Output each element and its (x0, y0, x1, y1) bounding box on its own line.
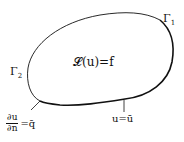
dirichlet-condition: u=ū (112, 114, 133, 124)
neumann-rhs: =q̄ (20, 118, 35, 129)
neumann-leader-line (31, 101, 40, 110)
gamma2-label: Γ2 (10, 66, 22, 80)
domain-equation: 𝓛(u)=f (73, 56, 114, 68)
gamma1-label: Γ1 (163, 13, 175, 27)
neumann-condition: ∂u ∂n =q̄ (6, 113, 35, 134)
neumann-denominator: ∂n (7, 124, 17, 134)
